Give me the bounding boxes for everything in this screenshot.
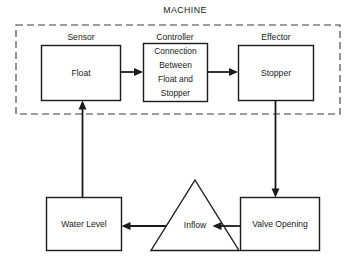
diagram-canvas: MACHINE Sensor Controller Effector Float…: [0, 0, 353, 263]
node-connection-label-line1: Connection: [154, 46, 197, 56]
edge-stopper-to-valve-opening: [272, 101, 280, 198]
node-inflow-triangle[interactable]: [151, 180, 239, 251]
group-caption-effector: Effector: [261, 32, 291, 42]
node-connection-label-line3: Float and: [158, 74, 193, 84]
node-connection-label-line2: Between: [159, 60, 192, 70]
edge-inflow-to-water-level: [122, 222, 167, 230]
group-caption-controller: Controller: [156, 32, 193, 42]
block-diagram: MACHINE Sensor Controller Effector Float…: [0, 0, 353, 263]
group-caption-sensor: Sensor: [67, 32, 94, 42]
node-inflow-label: Inflow: [184, 220, 207, 230]
node-water-level-label: Water Level: [61, 219, 107, 229]
edge-water-level-to-float: [79, 101, 87, 198]
node-connection-label-line4: Stopper: [161, 88, 191, 98]
node-valve-opening-label: Valve Opening: [252, 219, 308, 229]
edge-connection-to-stopper: [208, 68, 239, 76]
edge-float-to-connection: [121, 68, 144, 76]
node-stopper-label: Stopper: [261, 68, 291, 78]
node-float-label: Float: [71, 68, 91, 78]
machine-boundary-label: MACHINE: [163, 5, 206, 15]
